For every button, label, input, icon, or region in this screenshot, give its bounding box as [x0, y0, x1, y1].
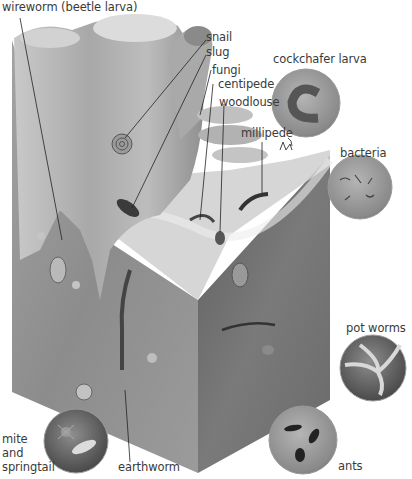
label-slug: slug: [206, 46, 229, 59]
label-mite-line2: and: [2, 446, 55, 460]
snail: [112, 134, 132, 154]
label-mite-line1: mite: [2, 432, 55, 446]
soil-diagram: [0, 0, 412, 479]
label-snail: snail: [206, 31, 232, 44]
inset-bacteria: [328, 155, 392, 219]
label-woodlouse: woodlouse: [219, 96, 279, 109]
inset-ants: [269, 406, 337, 474]
inset-pot-worms: [340, 335, 406, 401]
stump-cut-top: [93, 14, 177, 42]
label-earthworm: earthworm: [118, 461, 180, 474]
label-fungi: fungi: [212, 64, 241, 77]
label-cockchafer-larva: cockchafer larva: [273, 53, 367, 66]
label-pot-worms: pot worms: [346, 322, 406, 335]
label-wireworm: wireworm (beetle larva): [2, 1, 137, 14]
label-mite-line3: springtail: [2, 460, 55, 474]
woodlouse: [215, 231, 225, 245]
label-millipede: millipede: [241, 127, 293, 140]
label-bacteria: bacteria: [340, 147, 386, 160]
label-centipede: centipede: [218, 78, 274, 91]
label-ants: ants: [338, 460, 362, 473]
label-mite-and-springtail: mite and springtail: [2, 432, 55, 474]
